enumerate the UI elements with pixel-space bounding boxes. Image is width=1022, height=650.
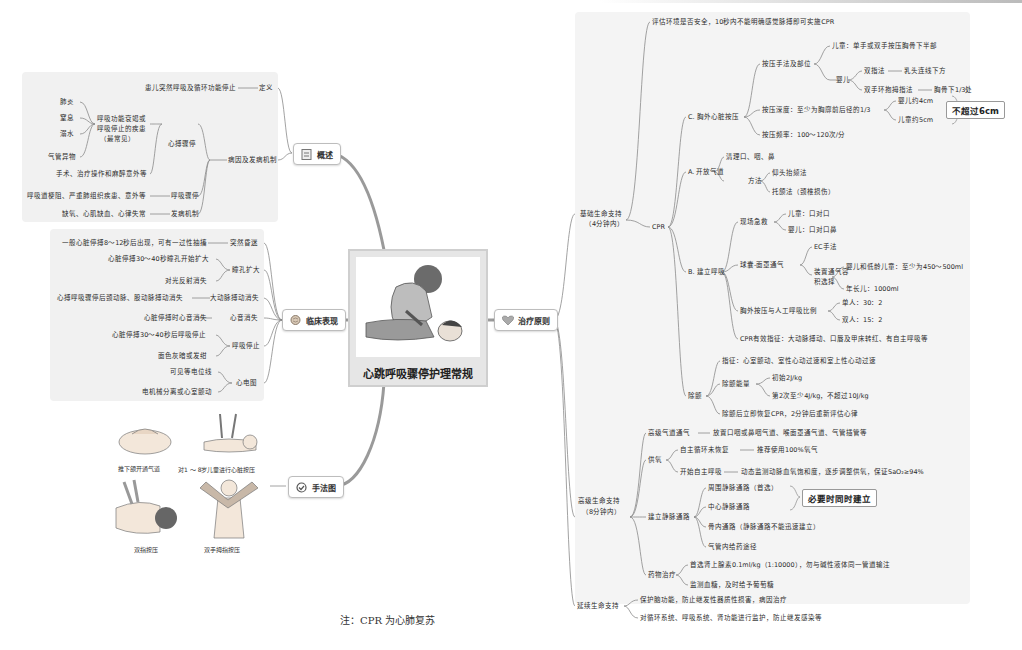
airway-method-label: 方法: [748, 177, 762, 185]
depth-infant: 婴儿约4cm: [898, 97, 933, 105]
oxygen-1-text: 推荐使用100%氧气: [757, 446, 818, 454]
caption-jaw-thrust: 推下颌开通气道: [118, 464, 160, 473]
drugs-label: 药物治疗: [648, 571, 676, 579]
pls-1: 保护脑功能，防止继发性器质性损害，病因治疗: [640, 596, 787, 604]
a-airway-label: A. 开放气道: [688, 168, 724, 176]
als-airway-label: 高级气道通气: [648, 429, 690, 437]
bag-volume-label-2: 积选择: [814, 278, 835, 286]
c-compression-label: C. 胸外心脏按压: [688, 113, 739, 121]
clinical-ecg-text1: 可见等电位线: [170, 368, 212, 376]
bag-mask-label: 球囊-面罩通气: [740, 261, 784, 269]
clinical-pulse-label: 大动脉搏动消失: [210, 294, 259, 302]
cpr-label: CPR: [652, 223, 665, 231]
caption-child-compression: 对1 ～ 8岁儿童进行心脏按压: [178, 465, 255, 474]
check-circle-icon: [296, 482, 307, 493]
onsite-child: 儿童：口对口: [788, 210, 830, 218]
als-airway-text: 放置口咽或鼻咽气道、喉面罩通气道、气管插管等: [713, 429, 867, 437]
oxygen-label: 供氧: [648, 456, 662, 464]
onsite-label: 现场急救: [740, 218, 768, 226]
technique-label: 按压手法及部位: [762, 60, 811, 68]
mechanism-label: 发病机制: [171, 210, 199, 218]
cardiac-arrest-label: 心搏骤停: [168, 140, 196, 148]
iv-1: 周围静脉通路（首选）: [708, 484, 778, 492]
cause-foreign-body: 气管异物: [48, 153, 76, 161]
airway-method-1: 仰头抬颏法: [772, 169, 807, 177]
bls-label-2: （4分钟内）: [585, 220, 624, 228]
brain-icon: [290, 315, 301, 326]
clinical-pupil-text2: 对光反射消失: [165, 277, 207, 285]
drugs-1: 首选肾上腺素0.1ml/kg（1:10000），勿与碱性液体同一管道输注: [690, 561, 890, 569]
als-label-2: （8分钟内）: [582, 508, 621, 516]
figure-jaw-thrust: [112, 420, 178, 460]
clinical-pulse-text: 心搏呼吸骤停后颈动脉、股动脉搏动消失: [57, 294, 183, 302]
oxygen-1-label: 自主循环未恢复: [680, 446, 729, 454]
defib-energy-1: 初始2J/kg: [772, 374, 802, 382]
drugs-2: 监测血糖，及时给予葡萄糖: [690, 581, 774, 589]
defib-after: 除颤后立即恢复CPR，2分钟后重新评估心律: [722, 410, 858, 418]
bls-label-1: 基础生命支持: [580, 210, 622, 218]
clinical-heart-sound-text: 心脏停搏时心音消失: [144, 314, 207, 322]
ratio-double: 双人：15：2: [842, 316, 882, 324]
clinical-breath-text2: 面色灰暗或发绀: [158, 352, 207, 360]
treatment-label: 治疗原则: [518, 315, 550, 326]
heart-icon: [502, 315, 513, 326]
b-breathing-label: B. 建立呼吸: [688, 268, 725, 276]
als-label-1: 高级生命支持: [578, 497, 620, 505]
bag-volume-label-1: 装置通气容: [814, 268, 849, 276]
resp-failure-line1: 呼吸功能衰竭或: [97, 115, 146, 123]
rate-text: 按压频率：100～120次/分: [762, 131, 845, 139]
respiratory-arrest-text: 呼吸道梗阻、严重肺组织疾患、意外等: [27, 192, 146, 200]
two-thumb-text: 胸骨下1/3处: [934, 86, 972, 94]
iv-2: 中心静脉通路: [708, 503, 750, 511]
defib-label: 除颤: [688, 392, 702, 400]
depth-label: 按压深度：至少为胸廓前后径的1/3: [762, 106, 870, 114]
clinical-label: 临床表现: [306, 315, 338, 326]
bls-assess: 评估环境是否安全，10秒内不能明确感觉脉搏即可实施CPR: [652, 18, 834, 26]
airway-clear: 清理口、咽、鼻: [726, 153, 775, 161]
onsite-infant: 婴儿：口对口鼻: [788, 226, 837, 234]
cpr-effective: CPR有效指征：大动脉搏动、口唇及甲床转红、有自主呼吸等: [740, 335, 928, 343]
treatment-node[interactable]: 治疗原则: [494, 309, 558, 331]
central-topic[interactable]: 心跳呼吸骤停护理常规: [348, 249, 488, 387]
ratio-label: 胸外按压与人工呼吸比例: [740, 307, 817, 315]
depth-max-box: 不超过6cm: [946, 101, 1005, 119]
iv-label: 建立静脉通路: [648, 513, 690, 521]
ratio-single: 单人：30：2: [842, 299, 882, 307]
cause-drowning: 溺水: [60, 130, 74, 138]
two-thumb-label: 双手环抱拇指法: [864, 86, 913, 94]
oxygen-2-label: 开始自主呼吸: [680, 468, 722, 476]
defib-energy-label: 除颤能量: [722, 380, 750, 388]
clinical-ecg-label: 心电图: [236, 379, 257, 387]
clinical-pupil-label: 瞳孔扩大: [232, 266, 260, 274]
iv-4: 气管内给药途径: [708, 543, 757, 551]
iv-note-box: 必要时同时建立: [802, 489, 877, 507]
clinical-coma-text: 一般心脏停搏8～12秒后出现，可有一过性抽搐: [62, 239, 207, 247]
bag-volume-1: 婴儿和低龄儿童：至少为450～500ml: [846, 263, 963, 271]
diagrams-node[interactable]: 手法图: [288, 476, 344, 498]
bag-volume-2: 年长儿：1000ml: [846, 285, 899, 293]
cause-asphyxia: 窒息: [60, 114, 74, 122]
overview-node[interactable]: 概述: [293, 143, 341, 165]
clinical-pupil-text1: 心脏停搏30～40秒瞳孔开始扩大: [108, 255, 209, 263]
definition-label: 定义: [259, 84, 273, 92]
document-icon: [301, 149, 312, 160]
iv-3: 骨内通路（静脉通路不能迅速建立）: [708, 523, 820, 531]
airway-method-2: 托颌法（颈椎损伤）: [772, 188, 835, 196]
clinical-breath-label: 呼吸停止: [232, 342, 260, 350]
figure-child-compression: [198, 412, 264, 458]
depth-child: 儿童约5cm: [898, 116, 933, 124]
diagrams-label: 手法图: [312, 482, 336, 493]
two-finger-text: 乳头连线下方: [904, 67, 946, 75]
figure-two-finger: [110, 478, 182, 538]
clinical-coma-label: 突然昏迷: [230, 239, 258, 247]
resp-failure-line2: 呼吸停止的疾患: [97, 125, 146, 133]
technique-infant: 婴儿: [836, 76, 850, 84]
clinical-node[interactable]: 临床表现: [282, 309, 346, 331]
definition-text: 患儿突然呼吸及循环功能停止: [145, 84, 236, 92]
central-topic-title: 心跳呼吸骤停护理常规: [350, 365, 486, 381]
caption-two-thumb: 双手拇指按压: [204, 545, 240, 554]
overview-label: 概述: [317, 149, 333, 160]
mechanism-text: 缺氧、心肌缺血、心律失常: [62, 210, 146, 218]
defib-energy-2: 第2次至少4J/kg，不超过10J/kg: [772, 392, 869, 400]
oxygen-2-text: 动态监测动脉血氧饱和度，逐步调整供氧，保证SaO₂≥94%: [741, 468, 924, 476]
